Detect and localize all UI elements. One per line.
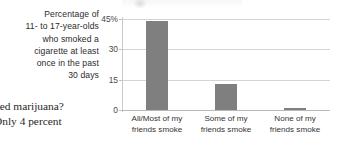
x-tick-label-line: friends smoke [118,125,196,136]
bar-chart: 0153045% All/Most of myfriends smokeSome… [0,0,340,144]
bar [284,108,306,110]
scan-artifact [122,0,242,8]
y-axis-labels: 0153045% [78,0,118,144]
y-tick-mark [119,49,122,50]
x-tick-label-line: friends smoke [256,125,334,136]
x-tick-label-line: None of my [256,114,334,125]
x-tick-label-line: All/Most of my [118,114,196,125]
x-tick-label-line: friends smoke [187,125,265,136]
x-tick-label: Some of myfriends smoke [187,114,265,135]
y-tick-mark [119,110,122,111]
chart-figure: Percentage of 11- to 17-year-olds who sm… [0,0,340,144]
y-tick-label: 30 [82,44,118,54]
bars-layer [122,19,330,110]
x-tick-label: All/Most of myfriends smoke [118,114,196,135]
x-tick-label: None of myfriends smoke [256,114,334,135]
y-tick-label: 45% [82,14,118,24]
y-tick-label: 0 [82,105,118,115]
y-tick-mark [119,80,122,81]
x-axis-line [122,110,330,111]
bar [215,84,237,110]
y-tick-mark [119,19,122,20]
y-tick-label: 15 [82,75,118,85]
x-tick-label-line: Some of my [187,114,265,125]
bar [146,21,168,110]
